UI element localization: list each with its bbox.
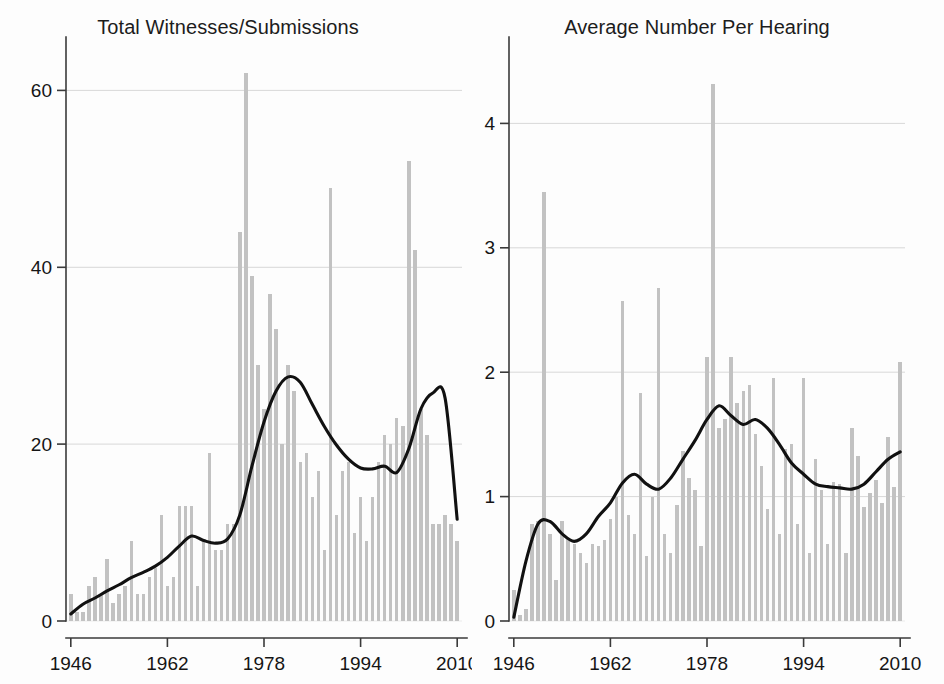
bar [419, 409, 422, 621]
bar [130, 541, 133, 621]
bar [585, 563, 588, 621]
bar [536, 521, 539, 621]
bar [735, 403, 738, 621]
bar [657, 288, 660, 621]
bar [573, 544, 576, 621]
x-tick-label: 1962 [589, 653, 631, 674]
bar [802, 378, 805, 621]
bar [292, 391, 295, 621]
bar [353, 533, 356, 621]
bar [214, 550, 217, 621]
bar [166, 586, 169, 621]
bar [443, 515, 446, 621]
bar [323, 550, 326, 621]
bar [407, 161, 410, 621]
bar [268, 294, 271, 621]
bar [778, 534, 781, 621]
bar [579, 553, 582, 621]
bar [341, 471, 344, 621]
bar [449, 524, 452, 621]
bar [898, 362, 901, 621]
bar [142, 594, 145, 621]
bar [244, 73, 247, 621]
bar [651, 497, 654, 621]
bar [317, 471, 320, 621]
bar [518, 615, 521, 621]
bar [591, 544, 594, 621]
x-tick-label: 1978 [243, 653, 285, 674]
plot-area-right: 0123419461962197819942010 [472, 0, 944, 684]
bar [874, 480, 877, 621]
bar [455, 541, 458, 621]
axes-group [57, 37, 467, 647]
bar [844, 553, 847, 621]
bar [609, 519, 612, 621]
y-tick-label: 2 [484, 362, 495, 383]
bar [838, 484, 841, 621]
bar [311, 497, 314, 621]
bar [69, 594, 72, 621]
bar [621, 301, 624, 621]
bar [160, 515, 163, 621]
y-tick-label: 40 [31, 257, 52, 278]
bar [675, 505, 678, 621]
bar [880, 503, 883, 621]
y-tick-label: 20 [31, 434, 52, 455]
y-tick-label: 4 [484, 113, 495, 134]
bar [554, 580, 557, 621]
bar [868, 493, 871, 621]
bar [832, 482, 835, 621]
x-tick-label: 1962 [146, 653, 188, 674]
bar [377, 462, 380, 621]
bar [123, 586, 126, 621]
bar [305, 453, 308, 621]
bar [425, 435, 428, 621]
bar [766, 509, 769, 621]
bar [723, 419, 726, 621]
bar [196, 586, 199, 621]
bar [627, 515, 630, 621]
bar [87, 586, 90, 621]
bar [699, 546, 702, 621]
bar [208, 453, 211, 621]
y-tick-label: 3 [484, 237, 495, 258]
x-tick-label: 1946 [50, 653, 92, 674]
bar [790, 444, 793, 621]
bar [808, 553, 811, 621]
bar [597, 546, 600, 621]
bar [566, 538, 569, 621]
bar [329, 188, 332, 621]
bar [431, 524, 434, 621]
bar [202, 541, 205, 621]
bar [262, 409, 265, 621]
bar [603, 540, 606, 621]
bar [148, 577, 151, 621]
figure-container: Total Witnesses/Submissions 020406019461… [0, 0, 944, 684]
bar [856, 456, 859, 621]
bar [760, 466, 763, 621]
bar [117, 594, 120, 621]
bar [286, 365, 289, 621]
bar [178, 506, 181, 621]
bar [754, 434, 757, 621]
y-tick-label: 1 [484, 486, 495, 507]
bar [347, 462, 350, 621]
bar [796, 524, 799, 621]
bar [850, 428, 853, 621]
bar [663, 534, 666, 621]
bar [542, 192, 545, 621]
bar [826, 544, 829, 621]
bar [280, 444, 283, 621]
bar [645, 556, 648, 621]
bar [232, 524, 235, 621]
bar [524, 609, 527, 621]
bar [729, 357, 732, 621]
bar [681, 451, 684, 621]
x-tick-label: 2010 [879, 653, 921, 674]
x-tick-label: 1978 [686, 653, 728, 674]
bar [437, 524, 440, 621]
bar [669, 553, 672, 621]
bar [862, 507, 865, 621]
bar [705, 357, 708, 621]
bar [220, 550, 223, 621]
